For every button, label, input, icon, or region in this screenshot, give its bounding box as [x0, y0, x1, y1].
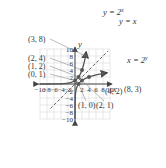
labels: (0, 1)(1, 2)(2, 4)(3, 8)(1, 0)(2, 1)(4, … — [28, 7, 148, 110]
point-label: (2, 4) — [28, 54, 46, 63]
chart-canvas: xy −10−8−6−4−2246810108642−2−4−6−8−10 (0… — [0, 0, 166, 168]
equation-label: x = 2y — [126, 55, 148, 65]
equation-label: y = x — [118, 16, 137, 26]
point-label: (8, 3) — [124, 85, 142, 94]
data-point — [87, 75, 91, 79]
point-label: (2, 1) — [96, 101, 114, 110]
point-label: (3, 8) — [28, 35, 46, 44]
point-label: (4, 2) — [105, 87, 123, 96]
y-axis-label: y — [77, 39, 82, 49]
point-label: (1, 2) — [28, 62, 46, 71]
data-point — [101, 72, 105, 76]
line-y-equals-x — [51, 51, 109, 109]
svg-text:−10: −10 — [62, 116, 73, 124]
point-label: (1, 0) — [78, 101, 96, 110]
point-label: (0, 1) — [28, 70, 46, 79]
